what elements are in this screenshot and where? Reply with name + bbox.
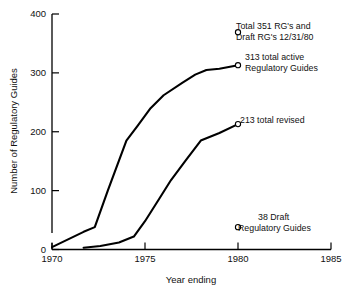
x-tick-label-1975: 1975: [134, 253, 155, 264]
series-endpoint-marker-0: [235, 63, 240, 68]
annotation-total-rgs-line2: Draft RG's 12/31/80: [236, 32, 314, 42]
annotation-draft-rgs-line1: 38 Draft: [258, 212, 290, 222]
annotation-total-rgs: Total 351 RG's and Draft RG's 12/31/80: [236, 21, 314, 42]
y-tick-label-400: 400: [30, 8, 46, 19]
annotation-total-rgs-line1: Total 351 RG's and: [236, 21, 311, 31]
y-axis-title: Number of Regulatory Guides: [8, 68, 19, 194]
annotation-total-revised-line1: 213 total revised: [240, 115, 305, 125]
regulatory-guides-line-chart: 0100200300400 1970197519801985 Year endi…: [0, 0, 349, 289]
y-tick-label-100: 100: [30, 185, 46, 196]
y-tick-label-200: 200: [30, 126, 46, 137]
x-tick-label-1980: 1980: [227, 253, 248, 264]
x-tick-label-1970: 1970: [41, 253, 62, 264]
chart-figure: 0100200300400 1970197519801985 Year endi…: [0, 0, 349, 289]
annotation-total-active-line1: 313 total active: [245, 52, 304, 62]
x-tick-label-1985: 1985: [320, 253, 341, 264]
annotation-total-revised: 213 total revised: [240, 115, 305, 125]
annotation-total-active-line2: Regulatory Guides: [245, 63, 318, 73]
x-axis-title: Year ending: [166, 274, 216, 285]
y-tick-label-300: 300: [30, 67, 46, 78]
annotation-draft-rgs-line2: Regulatory Guides: [238, 223, 311, 233]
